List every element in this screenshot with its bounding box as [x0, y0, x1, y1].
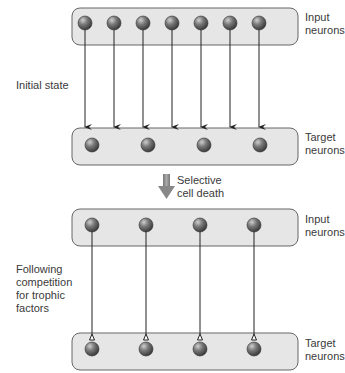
competition-label: Following competition for trophic factor…	[16, 263, 72, 315]
label-line: Selective	[177, 174, 224, 187]
target-neurons-label-after: Target neurons	[305, 337, 345, 363]
input-neurons-label-initial: Input neurons	[305, 11, 345, 37]
label-line: neurons	[305, 144, 345, 157]
label-line: neurons	[305, 24, 345, 37]
label-line: Target	[305, 337, 345, 350]
input-layer-box-after	[72, 209, 298, 246]
label-line: Target	[305, 131, 345, 144]
input-neurons-label-after: Input neurons	[305, 213, 345, 239]
label-line: neurons	[305, 350, 345, 363]
label-line: Following	[16, 263, 72, 276]
label-line: cell death	[177, 187, 224, 200]
target-layer-box-after	[72, 333, 298, 370]
label-line: neurons	[305, 226, 345, 239]
target-neurons-label-initial: Target neurons	[305, 131, 345, 157]
selective-death-arrow-icon	[158, 174, 175, 199]
label-line: factors	[16, 302, 72, 315]
label-line: competition	[16, 276, 72, 289]
initial-state-label: Initial state	[16, 79, 69, 92]
label-line: Input	[305, 213, 345, 226]
label-line: for trophic	[16, 289, 72, 302]
label-line: Input	[305, 11, 345, 24]
selective-cell-death-label: Selective cell death	[177, 174, 224, 200]
